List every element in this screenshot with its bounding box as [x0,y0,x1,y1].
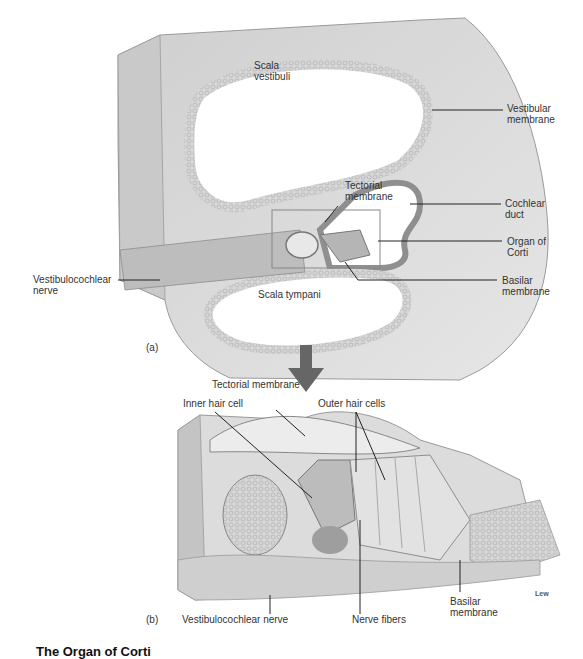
panel-a-label: (a) [146,342,158,353]
label-vestibulocochlear-nerve-b: Vestibulocochlear nerve [182,614,288,625]
label-outer-hair-cells: Outer hair cells [318,398,385,409]
label-scala-tympani: Scala tympani [258,289,321,300]
label-vestibulocochlear-nerve-a: Vestibulocochlear nerve [33,274,111,296]
label-nerve-fibers: Nerve fibers [352,614,406,625]
panel-a-cochlea-section [118,18,548,392]
figure-caption: The Organ of Corti [36,644,151,659]
panel-b-organ-of-corti [178,412,560,600]
label-cochlear-duct: Cochlear duct [505,198,545,220]
artist-credit: Lew [535,590,549,597]
label-basilar-membrane-a: Basilar membrane [502,275,550,297]
panel-b-label: (b) [146,614,158,625]
label-basilar-membrane-b: Basilar membrane [450,596,498,618]
label-tectorial-membrane-a: Tectorial membrane [345,180,393,202]
label-inner-hair-cell: Inner hair cell [183,398,243,409]
label-vestibular-membrane: Vestibular membrane [507,103,555,125]
label-organ-of-corti: Organ of Corti [507,236,546,258]
label-tectorial-membrane-b: Tectorial membrane [212,379,300,390]
label-scala-vestibuli: Scala vestibuli [254,60,290,82]
